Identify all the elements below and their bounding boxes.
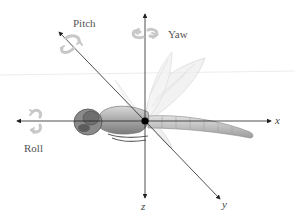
pitch-rotation-icon — [61, 36, 82, 53]
dragonfly-axes-diagram: Pitch Yaw Roll x y z — [0, 0, 295, 221]
center-of-mass-dot — [141, 117, 148, 124]
dragonfly-mouth — [78, 124, 90, 132]
roll-rotation-icon — [30, 110, 41, 133]
roll-label: Roll — [24, 143, 43, 154]
diagram-canvas — [0, 0, 295, 221]
dragonfly-eye — [83, 111, 99, 125]
background-line — [0, 71, 295, 75]
y-axis — [145, 121, 220, 199]
yaw-label: Yaw — [168, 29, 188, 40]
x-axis-label: x — [275, 115, 280, 126]
z-axis-label: z — [141, 201, 145, 212]
y-axis-label: y — [222, 199, 227, 210]
diagonal-axis-up — [59, 32, 145, 121]
dragonfly-thorax — [100, 106, 149, 134]
dragonfly-legs — [108, 134, 148, 141]
pitch-label: Pitch — [73, 18, 96, 29]
